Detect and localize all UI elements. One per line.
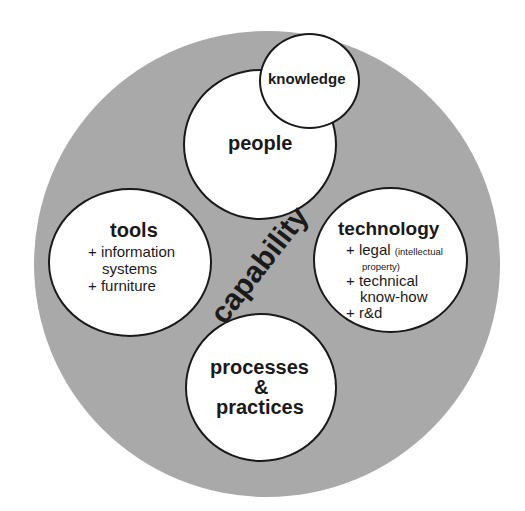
legal-note: (intellectual [395, 246, 443, 257]
processes-title-line3: practices [216, 396, 304, 419]
tools-item-systems: systems [102, 260, 157, 277]
knowledge-label: knowledge [268, 70, 346, 87]
technology-item-legal-note: property) [362, 261, 400, 272]
technology-item-rd: + r&d [346, 304, 382, 321]
people-label: people [228, 132, 292, 155]
technology-title: technology [338, 218, 439, 240]
legal-text: + legal [346, 241, 391, 258]
tools-item-furniture: + furniture [88, 277, 156, 294]
technology-node [313, 187, 468, 333]
technology-item-knowhow: know-how [360, 288, 428, 305]
tools-title: tools [110, 219, 158, 242]
tools-item-information: + information [88, 243, 175, 260]
technology-item-technical: + technical [346, 272, 418, 289]
technology-item-legal: + legal (intellectual [346, 241, 443, 260]
